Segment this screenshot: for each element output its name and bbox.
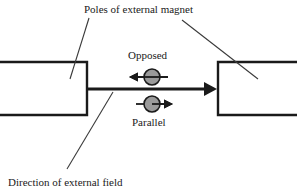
leader-line-field-arrow: [67, 92, 113, 169]
magnet-poles-diagram: Poles of external magnet Opposed Paralle…: [0, 0, 297, 194]
left-pole-shape: [0, 62, 87, 115]
parallel-spin-particle: [136, 96, 173, 112]
direction-of-external-field-label: Direction of external field: [8, 177, 123, 188]
opposed-label: Opposed: [128, 50, 167, 61]
diagram-canvas: [0, 0, 297, 194]
right-pole-shape: [218, 62, 297, 115]
poles-of-external-magnet-label: Poles of external magnet: [84, 4, 193, 15]
opposed-spin-particle: [129, 69, 168, 85]
leader-line-right-pole: [182, 20, 258, 79]
parallel-label: Parallel: [132, 117, 166, 128]
